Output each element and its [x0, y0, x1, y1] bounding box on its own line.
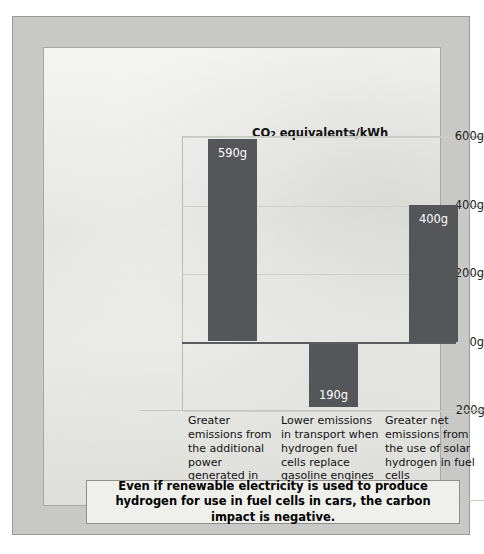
bar-value-label-3: 400g	[409, 212, 458, 226]
outer-frame-border: CO2 equivalents/kWh 600g400g200g0g−200g …	[12, 16, 470, 535]
bar-3: 400g	[409, 205, 458, 342]
gridline--200	[183, 411, 484, 412]
caption-divider-top	[140, 410, 484, 411]
conclusion-text: Even if renewable electricity is used to…	[87, 479, 459, 526]
bar-value-label-1: 590g	[208, 146, 257, 160]
gridline-600	[183, 137, 484, 138]
bar-value-label-2: 190g	[309, 388, 358, 402]
y-tick-label-0: 600g	[446, 129, 484, 143]
zero-axis-line	[182, 342, 456, 344]
chart-area: CO2 equivalents/kWh 600g400g200g0g−200g …	[140, 120, 484, 410]
bar-1: 590g	[208, 139, 257, 341]
figure-root: CO2 equivalents/kWh 600g400g200g0g−200g …	[0, 0, 484, 554]
bar-2: 190g	[309, 342, 358, 407]
conclusion-box: Even if renewable electricity is used to…	[86, 480, 460, 524]
chart-panel: CO2 equivalents/kWh 600g400g200g0g−200g …	[43, 47, 441, 506]
